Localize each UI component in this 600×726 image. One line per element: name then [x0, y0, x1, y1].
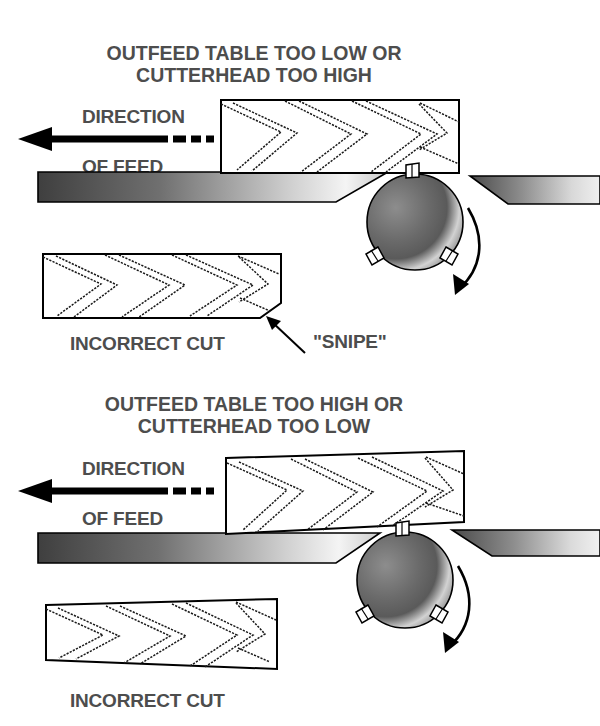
diagram-2-feed-arrow [18, 479, 214, 503]
diagram-1-cutterhead [366, 163, 463, 270]
diagram-2-workpiece-board [226, 451, 464, 534]
diagram-1-result-board [43, 254, 281, 318]
diagram-outfeed-too-high: OUTFEED TABLE TOO HIGH OR CUTTERHEAD TOO… [0, 373, 600, 726]
diagram-outfeed-too-low: OUTFEED TABLE TOO LOW OR CUTTERHEAD TOO … [0, 0, 600, 373]
diagram-1-outfeed-table [470, 176, 600, 204]
diagram-1-workpiece-board [221, 100, 459, 173]
diagram-2-result-board [46, 599, 277, 669]
diagram-2-graphic [0, 373, 600, 726]
diagram-page: OUTFEED TABLE TOO LOW OR CUTTERHEAD TOO … [0, 0, 600, 726]
diagram-2-outfeed-table [452, 530, 600, 556]
diagram-2-infeed-table [38, 533, 380, 563]
diagram-1-infeed-table [38, 172, 388, 202]
diagram-1-graphic [0, 0, 600, 373]
diagram-1-feed-arrow [18, 127, 214, 151]
diagram-1-snipe-leader [266, 316, 305, 353]
